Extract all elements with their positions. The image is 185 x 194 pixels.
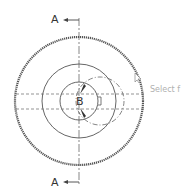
detail-leader-top-icon [80,84,86,94]
drawing-canvas[interactable]: A A B Select f [0,0,185,194]
detail-leader-bottom-icon [80,108,86,118]
section-label-bottom: A [51,177,59,188]
cursor-hint: Select f [150,86,180,94]
arrow-head-top-icon [63,18,68,22]
drawing-view[interactable] [0,0,185,194]
section-label-top: A [51,14,59,25]
detail-label: B [76,96,84,107]
arrow-head-bottom-icon [63,180,68,184]
